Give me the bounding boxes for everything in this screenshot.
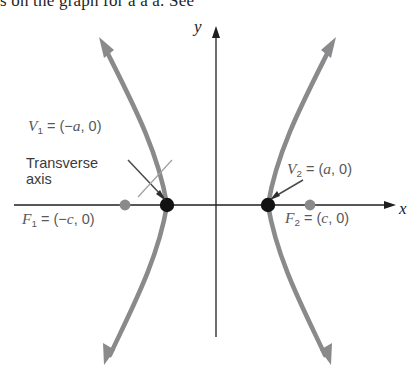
- vertex-1-label: V1 = (−a, 0): [28, 117, 101, 136]
- leader-arrowheads: [156, 190, 280, 201]
- y-axis-label: y: [194, 17, 202, 37]
- x-axis-arrowhead: [384, 201, 396, 209]
- vertex-1-dot: [160, 198, 174, 212]
- curve-arrowheads: [99, 37, 336, 365]
- transverse-axis-label: Transverse axis: [26, 155, 98, 187]
- vertex-2-subscript: 2: [296, 168, 301, 179]
- left-branch-curve: [104, 46, 167, 355]
- vertex-1-subscript: 1: [37, 125, 42, 136]
- hyperbola-figure: [0, 0, 420, 377]
- focus-1-dot: [120, 200, 131, 211]
- hyperbola-curves: [104, 46, 331, 355]
- figure-page: s on the graph for a a a. See: [0, 0, 420, 377]
- transverse-axis-label-line1: Transverse: [26, 155, 98, 171]
- focus-1-label: F1 = (−c, 0): [22, 210, 95, 229]
- right-branch-curve: [268, 46, 331, 355]
- focus-2-subscript: 2: [294, 217, 299, 228]
- focus-1-subscript: 1: [31, 218, 36, 229]
- vertex-2-label: V2 = (a, 0): [287, 160, 352, 179]
- left-branch-top-arrowhead: [99, 37, 114, 58]
- y-axis-arrowhead: [212, 26, 220, 38]
- transverse-axis-leader-line: [138, 160, 172, 197]
- right-branch-top-arrowhead: [321, 37, 336, 58]
- focus-2-label: F2 = (c, 0): [285, 209, 349, 228]
- vertex-2-dot: [261, 198, 275, 212]
- x-axis-label: x: [399, 199, 407, 219]
- transverse-axis-label-line2: axis: [26, 171, 98, 187]
